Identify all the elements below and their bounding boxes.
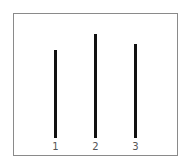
line-label-3: 3 [129, 142, 143, 152]
line-label-1: 1 [49, 142, 63, 152]
line-label-2: 2 [89, 142, 103, 152]
line-1 [54, 50, 57, 138]
line-2 [94, 34, 97, 138]
line-3 [134, 44, 137, 138]
